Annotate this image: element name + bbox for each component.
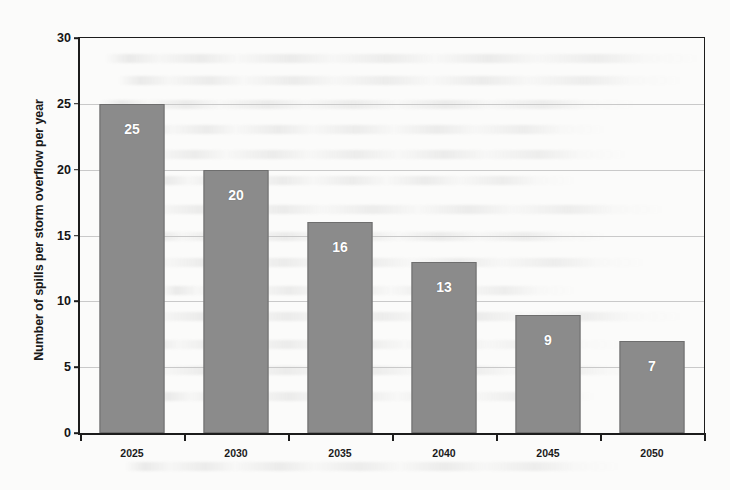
x-tick-mark [704,433,706,441]
bar[interactable]: 16 [308,222,373,433]
bar-slot: 7 [600,38,704,433]
bars-layer: 2520161397 [80,38,704,433]
y-axis-title: Number of spills per storm overflow per … [30,30,48,430]
x-tick-label: 2040 [432,447,455,459]
x-tick-mark [184,433,186,441]
x-tick-label: 2030 [224,447,247,459]
bar[interactable]: 25 [100,104,165,433]
bar-slot: 9 [496,38,600,433]
bar-value-label: 25 [101,121,164,137]
bar[interactable]: 9 [516,315,581,434]
x-tick-label: 2045 [536,447,559,459]
bar-value-label: 7 [621,358,684,374]
plot-area: 051015202530 2520161397 2025203020352040… [78,37,705,435]
chart-page: Number of spills per storm overflow per … [0,0,730,490]
x-tick-mark [80,433,82,441]
x-tick-label: 2050 [640,447,663,459]
bar[interactable]: 13 [412,262,477,433]
bar-slot: 16 [288,38,392,433]
x-tick-label: 2035 [328,447,351,459]
bar-value-label: 20 [205,187,268,203]
x-tick-mark [496,433,498,441]
y-tick-label: 10 [57,294,71,308]
y-tick-label: 0 [64,426,71,440]
y-tick-label: 30 [57,31,71,45]
bar-slot: 25 [80,38,184,433]
y-tick-label: 25 [57,97,71,111]
x-tick-label: 2025 [120,447,143,459]
bar-value-label: 16 [309,239,372,255]
x-tick-mark [288,433,290,441]
bar-slot: 13 [392,38,496,433]
y-tick-label: 20 [57,163,71,177]
bar[interactable]: 7 [620,341,685,433]
y-tick-label: 15 [57,229,71,243]
bar[interactable]: 20 [204,170,269,433]
y-tick-label: 5 [64,360,71,374]
bar-value-label: 9 [517,332,580,348]
bar-value-label: 13 [413,279,476,295]
bar-slot: 20 [184,38,288,433]
x-tick-mark [392,433,394,441]
x-tick-mark [600,433,602,441]
